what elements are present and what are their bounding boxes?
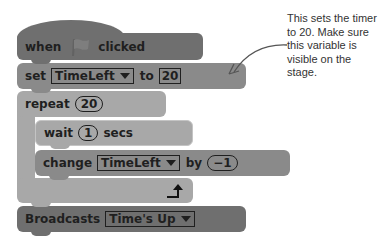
set-label: set bbox=[25, 69, 46, 83]
change-variable-block[interactable]: change TimeLeft by −1 bbox=[35, 150, 290, 176]
annotation-arrow-icon bbox=[225, 40, 290, 80]
when-label: when bbox=[25, 40, 61, 54]
by-label: by bbox=[186, 156, 202, 170]
repeat-block-bottom bbox=[17, 178, 193, 203]
broadcast-label: Broadcasts bbox=[25, 212, 100, 226]
message-name: Time's Up bbox=[109, 212, 175, 226]
wait-seconds-input[interactable]: 1 bbox=[78, 125, 98, 141]
repeat-label: repeat bbox=[25, 97, 70, 111]
variable-name: TimeLeft bbox=[55, 69, 115, 83]
variable-name: TimeLeft bbox=[101, 156, 161, 170]
wait-label: wait bbox=[44, 126, 73, 140]
secs-label: secs bbox=[103, 126, 133, 140]
variable-dropdown[interactable]: TimeLeft bbox=[97, 155, 180, 171]
to-label: to bbox=[140, 69, 154, 83]
dropdown-arrow-icon bbox=[166, 160, 176, 166]
change-label: change bbox=[43, 156, 92, 170]
message-dropdown[interactable]: Time's Up bbox=[105, 211, 194, 227]
repeat-count-input[interactable]: 20 bbox=[75, 96, 104, 112]
loop-arrow-icon bbox=[165, 183, 185, 199]
clicked-label: clicked bbox=[98, 40, 145, 54]
set-value-input[interactable]: 20 bbox=[159, 68, 182, 84]
change-amount-input[interactable]: −1 bbox=[207, 155, 237, 171]
annotation-note: This sets the timer to 20. Make sure thi… bbox=[287, 12, 382, 80]
green-flag-icon bbox=[70, 37, 92, 57]
repeat-block[interactable]: repeat 20 bbox=[17, 91, 166, 117]
set-variable-block[interactable]: set TimeLeft to 20 bbox=[17, 63, 246, 89]
dropdown-arrow-icon bbox=[181, 216, 191, 222]
when-flag-clicked-block[interactable]: when clicked bbox=[17, 33, 203, 60]
wait-block[interactable]: wait 1 secs bbox=[35, 120, 193, 146]
broadcast-block[interactable]: Broadcasts Time's Up bbox=[17, 206, 246, 232]
dropdown-arrow-icon bbox=[120, 73, 130, 79]
repeat-c-arm bbox=[17, 110, 35, 185]
variable-dropdown[interactable]: TimeLeft bbox=[51, 68, 134, 84]
